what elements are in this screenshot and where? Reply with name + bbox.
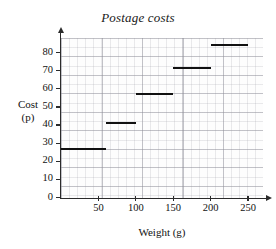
postage-costs-chart: Postage costs 01020304050607080 50100150… [0,0,276,249]
y-tick-label: 60 [20,82,53,93]
y-tick-mark [56,179,61,180]
y-axis-arrow-icon [58,27,64,33]
step-segment [136,93,173,95]
step-segment [173,67,210,69]
x-tick-mark [247,196,248,201]
x-tick-mark [98,196,99,201]
y-tick-mark [56,124,61,125]
step-segment [106,122,136,124]
x-tick-mark [173,196,174,201]
step-segment [211,44,248,46]
y-axis-title: Cost (p) [6,98,50,124]
x-axis-line [61,198,268,199]
y-tick-label: 20 [20,154,53,165]
y-tick-label: 0 [20,191,53,202]
y-tick-mark [56,161,61,162]
x-tick-label: 50 [82,202,114,213]
x-axis-title: Weight (g) [61,226,263,238]
y-axis-title-line-1: Cost [6,98,50,111]
x-tick-mark [210,196,211,201]
y-tick-mark [56,52,61,53]
x-tick-label: 100 [120,202,152,213]
y-tick-label: 80 [20,46,53,57]
y-tick-mark [56,106,61,107]
step-segment [61,148,106,150]
y-tick-label: 70 [20,64,53,75]
plot-area [61,38,263,198]
y-tick-mark [56,70,61,71]
y-tick-mark [56,197,61,198]
major-gridlines [61,38,263,198]
x-tick-label: 200 [195,202,227,213]
y-tick-label: 30 [20,136,53,147]
y-axis-title-line-2: (p) [6,111,50,124]
x-tick-label: 250 [232,202,264,213]
x-tick-label: 150 [157,202,189,213]
y-axis-line [60,32,61,199]
y-tick-label: 10 [20,172,53,183]
x-axis-arrow-icon [266,195,272,201]
y-tick-mark [56,143,61,144]
x-tick-mark [135,196,136,201]
y-tick-mark [56,88,61,89]
chart-title: Postage costs [0,10,276,26]
